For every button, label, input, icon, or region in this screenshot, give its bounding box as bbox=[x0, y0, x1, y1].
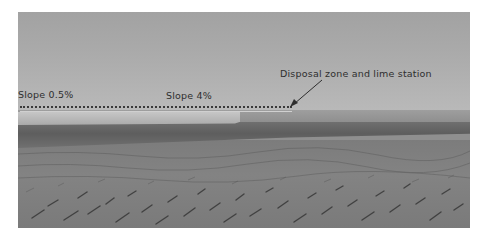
slope-guide-line bbox=[20, 111, 292, 112]
slope-0-5-label: Slope 0.5% bbox=[18, 89, 74, 100]
landscape-photo bbox=[18, 12, 470, 228]
crack-pattern bbox=[18, 132, 470, 228]
sky bbox=[18, 12, 470, 111]
arrow-icon bbox=[288, 78, 328, 108]
slope-4-label: Slope 4% bbox=[166, 90, 212, 101]
dotted-slope-line bbox=[20, 106, 292, 108]
